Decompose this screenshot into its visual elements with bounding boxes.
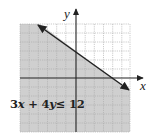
x-axis-label: x: [140, 78, 146, 94]
coef-3: 3: [10, 97, 18, 111]
leq-12: ≤ 12: [56, 97, 85, 111]
inequality-graph: [0, 0, 157, 139]
y-axis-label: y: [64, 6, 70, 22]
plus-4: + 4: [24, 97, 49, 111]
inequality-label: 3x + 4y≤ 12: [10, 97, 85, 111]
